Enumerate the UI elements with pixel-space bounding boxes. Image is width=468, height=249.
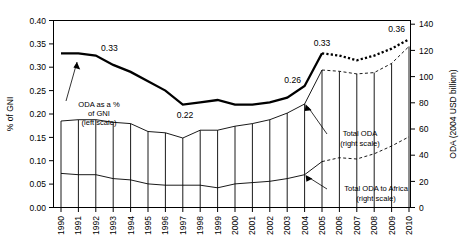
- y2tick-label-20: 20: [419, 177, 429, 187]
- xtick-label-1998: 1998: [195, 216, 205, 235]
- gni-callout-arrowhead: [73, 62, 80, 70]
- xtick-label-2005: 2005: [317, 216, 327, 235]
- data-label-1997: 0.22: [177, 110, 194, 120]
- xtick-label-2004: 2004: [300, 216, 310, 235]
- y2tick-label-40: 40: [419, 150, 429, 160]
- total-oda-line-projected: [322, 46, 409, 74]
- y2tick-label-120: 120: [419, 46, 433, 56]
- xtick-label-1999: 1999: [213, 216, 223, 235]
- gni-callout: ODA as a % of GNI (left scale): [66, 62, 120, 127]
- data-label-2005: 0.33: [314, 38, 331, 48]
- ytick-label-0-25: 0.25: [29, 86, 46, 96]
- ytick-label-0-05: 0.05: [29, 179, 46, 189]
- xtick-label-2002: 2002: [265, 216, 275, 235]
- ytick-label-0-10: 0.10: [29, 156, 46, 166]
- africa-callout-arrowhead: [306, 175, 313, 182]
- xtick-label-1991: 1991: [73, 216, 83, 235]
- africa-callout-line-2: (right scale): [356, 194, 396, 203]
- xtick-label-1992: 1992: [91, 216, 101, 235]
- xtick-label-1996: 1996: [160, 216, 170, 235]
- xtick-label-1993: 1993: [108, 216, 118, 235]
- right-axis: 140 120 100 80 60 40 20 0 ODA (2004 USD …: [411, 19, 459, 212]
- xtick-label-2001: 2001: [247, 216, 257, 235]
- africa-callout-line-1: Total ODA to Africa: [344, 184, 409, 193]
- gni-callout-line-1: ODA as a %: [78, 100, 120, 109]
- x-axis: 1990 1991 1992 1993 1994 1995 1996 1997 …: [56, 208, 414, 235]
- oda-trend-chart: 0.40 0.35 0.30 0.25 0.20 0.15 0.10 0.05 …: [0, 0, 468, 249]
- gni-percent-line-actual: [61, 53, 322, 104]
- ytick-label-0-40: 0.40: [29, 16, 46, 26]
- gni-callout-line-3: (left scale): [81, 118, 116, 127]
- gni-percent-line-projected: [322, 39, 409, 60]
- ytick-label-0-00: 0.00: [29, 203, 46, 213]
- xtick-label-1997: 1997: [178, 216, 188, 235]
- xtick-label-1990: 1990: [56, 216, 66, 235]
- xtick-label-2009: 2009: [387, 216, 397, 235]
- data-label-1991: 0.33: [101, 43, 118, 53]
- left-axis: 0.40 0.35 0.30 0.25 0.20 0.15 0.10 0.05 …: [5, 16, 54, 213]
- xtick-label-2008: 2008: [369, 216, 379, 235]
- data-label-2004: 0.26: [284, 75, 301, 85]
- xtick-label-1995: 1995: [143, 216, 153, 235]
- xtick-label-2010: 2010: [404, 216, 414, 235]
- right-axis-title: ODA (2004 USD billion): [448, 69, 458, 158]
- y2tick-label-100: 100: [419, 72, 433, 82]
- ytick-label-0-35: 0.35: [29, 39, 46, 49]
- gni-callout-line-2: of GNI: [88, 109, 110, 118]
- y2tick-label-80: 80: [419, 98, 429, 108]
- total-oda-callout-arrowhead: [305, 104, 312, 111]
- left-axis-title: % of GNI: [5, 97, 15, 131]
- total-oda-callout-line-2: (right scale): [340, 139, 380, 148]
- total-oda-callout: Total ODA (right scale): [305, 104, 381, 148]
- y2tick-label-140: 140: [419, 19, 433, 29]
- total-oda-callout-line-1: Total ODA: [343, 129, 379, 138]
- chart-container: 0.40 0.35 0.30 0.25 0.20 0.15 0.10 0.05 …: [0, 0, 468, 249]
- y2tick-label-60: 60: [419, 124, 429, 134]
- xtick-label-1994: 1994: [126, 216, 136, 235]
- xtick-label-2006: 2006: [334, 216, 344, 235]
- xtick-label-2000: 2000: [230, 216, 240, 235]
- y2tick-label-0: 0: [419, 203, 424, 213]
- xtick-label-2007: 2007: [352, 216, 362, 235]
- ytick-label-0-30: 0.30: [29, 62, 46, 72]
- data-label-2010: 0.36: [388, 24, 405, 34]
- ytick-label-0-20: 0.20: [29, 109, 46, 119]
- ytick-label-0-15: 0.15: [29, 133, 46, 143]
- total-oda-africa-line-actual: [61, 162, 322, 188]
- xtick-label-2003: 2003: [282, 216, 292, 235]
